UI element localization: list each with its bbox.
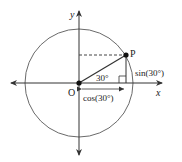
right-angle-marker <box>119 76 126 83</box>
angle-label: 30° <box>96 73 109 83</box>
origin-point <box>76 80 81 85</box>
cos-label: cos(30°) <box>83 93 114 103</box>
x-axis-label: x <box>155 87 161 98</box>
origin-label: O <box>68 87 75 98</box>
point-p-label: P <box>130 48 136 59</box>
sin-label: sin(30°) <box>135 68 164 78</box>
unit-circle-diagram: y x O P 30° sin(30°) cos(30°) <box>0 0 182 162</box>
y-axis-label: y <box>69 9 75 20</box>
point-p <box>123 52 128 57</box>
